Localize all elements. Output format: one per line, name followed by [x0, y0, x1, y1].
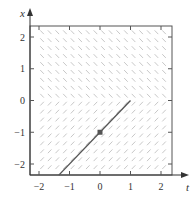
- slope-segment: [139, 134, 143, 138]
- slope-segment: [40, 38, 44, 42]
- slope-field-chart: −2−1012−2−1012 x t: [0, 0, 195, 197]
- slope-segment: [162, 126, 166, 130]
- slope-segment: [116, 38, 120, 42]
- x-tick-label: 0: [98, 181, 103, 192]
- slope-segment: [139, 157, 143, 161]
- slope-segment: [101, 54, 105, 58]
- slope-segment: [86, 62, 90, 66]
- slope-segment: [63, 110, 67, 114]
- slope-segment: [94, 157, 98, 161]
- slope-segment: [155, 86, 159, 90]
- slope-segment: [147, 118, 151, 122]
- slope-segment: [55, 102, 59, 106]
- slope-segment: [109, 141, 113, 145]
- slope-segment: [78, 78, 82, 82]
- slope-segment: [86, 126, 90, 130]
- slope-segment: [109, 102, 113, 106]
- slope-segment: [162, 141, 166, 145]
- slope-segment: [132, 165, 136, 169]
- slope-segment: [40, 126, 44, 130]
- slope-segment: [155, 118, 159, 122]
- slope-segment: [40, 46, 44, 50]
- y-tick-label: 0: [20, 95, 25, 106]
- slope-segment: [101, 110, 105, 114]
- slope-segment: [139, 110, 143, 114]
- slope-segment: [147, 141, 151, 145]
- slope-segment: [155, 141, 159, 145]
- slope-segment: [63, 149, 67, 153]
- slope-segment: [101, 70, 105, 74]
- slope-segment: [71, 141, 75, 145]
- slope-segment: [162, 54, 166, 58]
- slope-field: [40, 30, 166, 169]
- slope-segment: [116, 141, 120, 145]
- slope-segment: [139, 78, 143, 82]
- slope-segment: [109, 54, 113, 58]
- slope-segment: [48, 78, 52, 82]
- slope-segment: [155, 134, 159, 138]
- slope-segment: [132, 54, 136, 58]
- slope-segment: [124, 78, 128, 82]
- slope-segment: [55, 46, 59, 50]
- slope-segment: [40, 78, 44, 82]
- slope-segment: [94, 141, 98, 145]
- slope-segment: [48, 62, 52, 66]
- slope-segment: [63, 46, 67, 50]
- slope-segment: [139, 126, 143, 130]
- slope-segment: [109, 157, 113, 161]
- slope-segment: [48, 149, 52, 153]
- slope-segment: [139, 102, 143, 106]
- slope-segment: [162, 30, 166, 34]
- slope-segment: [86, 70, 90, 74]
- slope-segment: [109, 38, 113, 42]
- slope-segment: [78, 30, 82, 34]
- slope-segment: [132, 70, 136, 74]
- slope-segment: [101, 46, 105, 50]
- plot-frame: [30, 26, 172, 175]
- slope-segment: [71, 110, 75, 114]
- slope-segment: [63, 126, 67, 130]
- slope-segment: [124, 118, 128, 122]
- slope-segment: [63, 141, 67, 145]
- slope-segment: [139, 86, 143, 90]
- slope-segment: [109, 149, 113, 153]
- slope-segment: [101, 165, 105, 169]
- slope-segment: [48, 54, 52, 58]
- slope-segment: [132, 86, 136, 90]
- slope-segment: [40, 141, 44, 145]
- slope-segment: [147, 70, 151, 74]
- slope-segment: [155, 94, 159, 98]
- slope-segment: [139, 54, 143, 58]
- slope-segment: [63, 86, 67, 90]
- slope-segment: [139, 118, 143, 122]
- slope-segment: [155, 54, 159, 58]
- slope-segment: [71, 38, 75, 42]
- slope-segment: [155, 165, 159, 169]
- slope-segment: [124, 30, 128, 34]
- slope-segment: [71, 46, 75, 50]
- slope-segment: [162, 62, 166, 66]
- slope-segment: [63, 38, 67, 42]
- slope-segment: [71, 102, 75, 106]
- slope-segment: [40, 94, 44, 98]
- slope-segment: [132, 141, 136, 145]
- slope-segment: [40, 30, 44, 34]
- slope-segment: [55, 149, 59, 153]
- slope-segment: [147, 126, 151, 130]
- slope-segment: [48, 165, 52, 169]
- slope-segment: [48, 157, 52, 161]
- slope-segment: [139, 149, 143, 153]
- slope-segment: [109, 134, 113, 138]
- slope-segment: [147, 165, 151, 169]
- slope-segment: [71, 165, 75, 169]
- slope-segment: [94, 38, 98, 42]
- slope-segment: [55, 157, 59, 161]
- slope-segment: [86, 134, 90, 138]
- slope-segment: [78, 62, 82, 66]
- slope-segment: [101, 118, 105, 122]
- slope-segment: [86, 149, 90, 153]
- slope-segment: [162, 157, 166, 161]
- slope-segment: [78, 126, 82, 130]
- slope-segment: [116, 118, 120, 122]
- slope-segment: [40, 157, 44, 161]
